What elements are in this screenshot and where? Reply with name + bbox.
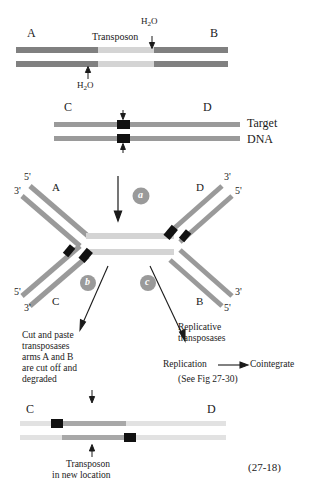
product-arrow-head <box>89 397 94 404</box>
step-a-arrow <box>114 176 121 221</box>
end-label-top-left-upper: 5' <box>24 172 31 182</box>
product-caption-line1: Transposon <box>66 459 110 470</box>
intermediate-label-b: B <box>196 296 203 307</box>
donor-bottom-arm-b <box>154 61 228 67</box>
product-dna-duplex <box>20 419 226 442</box>
cut-and-paste-line-2: transposases <box>22 341 70 352</box>
product-label-d: D <box>207 403 216 415</box>
donor-arm-a-label: A <box>27 27 36 39</box>
cointegrate-label: Cointegrate <box>250 359 294 370</box>
water-arrow-bottom-head <box>85 67 90 73</box>
donor-bottom-transposon <box>98 61 154 67</box>
target-label-c: C <box>64 101 72 113</box>
product-label-c: C <box>26 403 34 415</box>
target-dna-duplex <box>54 120 240 143</box>
step-b-label: b <box>85 277 90 287</box>
donor-top-transposon <box>98 47 154 53</box>
intermediate-label-c: C <box>52 296 59 307</box>
product-top-right-pale <box>126 421 226 426</box>
cut-and-paste-line-1: Cut and paste <box>22 330 74 341</box>
step-c-label: c <box>145 277 149 287</box>
intermediate-junction-bottom-left-outer <box>63 244 75 257</box>
cut-and-paste-line-4: are cut off and <box>22 363 77 374</box>
cut-and-paste-line-3: arms A and B <box>22 352 73 363</box>
target-top-insertion-site <box>117 120 130 129</box>
end-label-bottom-left-upper: 5' <box>14 287 21 297</box>
target-dna-name-line1: Target <box>247 117 277 129</box>
target-label-d: D <box>203 101 212 113</box>
end-label-bottom-left-lower: 3' <box>24 303 31 313</box>
end-label-bottom-right-lower: 5' <box>224 303 231 313</box>
replicative-line-2: transposases <box>178 333 226 344</box>
branch-arrows <box>80 266 185 341</box>
cointegrate-arrow-head <box>240 362 248 368</box>
step-a-label: a <box>138 190 143 200</box>
end-label-bottom-right-upper: 3' <box>235 287 242 297</box>
product-bottom-left-pale <box>20 435 62 440</box>
target-arrow-top-head <box>121 114 126 120</box>
target-attack-arrows <box>121 110 126 153</box>
donor-hydrolysis-arrows <box>85 36 154 79</box>
donor-arm-b-label: B <box>210 27 218 39</box>
step-a-arrow-head <box>114 211 121 221</box>
product-caption-line2: in new location <box>52 470 111 481</box>
donor-dna-duplex <box>16 47 228 67</box>
end-label-top-left-lower: 3' <box>14 186 21 196</box>
intermediate-label-a: A <box>52 182 60 193</box>
donor-top-arm-a <box>16 47 98 53</box>
product-bottom-right-pale <box>136 435 226 440</box>
product-caption-arrow <box>89 445 94 458</box>
intermediate-label-d: D <box>196 182 204 193</box>
target-bottom-insertion-site <box>117 134 130 143</box>
replication-to-cointegrate-arrow <box>218 362 248 368</box>
intermediate-transposon-top <box>86 233 174 239</box>
transposition-figure <box>0 0 311 485</box>
transposon-label: Transposon <box>92 32 138 42</box>
figure-number: (27-18) <box>248 462 281 473</box>
product-arrow <box>89 390 94 403</box>
product-top-left-pale <box>20 421 53 426</box>
branch-b-arrow-line <box>82 266 108 325</box>
replicative-line-1: Replicative <box>178 322 221 333</box>
figure-cross-reference: (See Fig 27-30) <box>178 374 238 385</box>
branch-b-arrow-head <box>80 320 86 331</box>
strand-transfer-intermediate <box>22 186 232 306</box>
product-bottom-insertion-block <box>124 433 136 442</box>
intermediate-transposon-bottom <box>86 249 174 255</box>
target-dna-name-line2: DNA <box>247 133 273 145</box>
target-bottom-strand <box>54 136 240 141</box>
water-label-bottom: H2O <box>77 81 94 92</box>
product-top-transposon <box>63 421 126 426</box>
donor-bottom-arm-a <box>16 61 98 67</box>
product-caption-arrow-head <box>89 445 94 452</box>
water-label-top: H2O <box>141 17 158 28</box>
end-label-top-right-upper: 3' <box>224 172 231 182</box>
end-label-top-right-lower: 5' <box>235 186 242 196</box>
replication-label: Replication <box>163 359 207 370</box>
donor-top-arm-b <box>154 47 228 53</box>
product-bottom-transposon <box>62 435 126 440</box>
target-top-strand <box>54 122 240 127</box>
target-arrow-bottom-head <box>121 144 126 150</box>
cut-and-paste-line-5: degraded <box>22 374 57 385</box>
product-top-insertion-block <box>51 419 63 428</box>
